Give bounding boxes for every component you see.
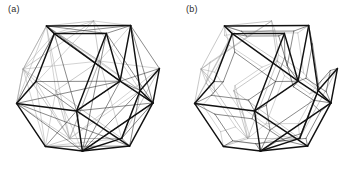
dodecahedron-diagram-b [178,0,355,169]
back-edges [195,21,338,146]
panel-b: (b) [178,0,355,169]
panel-a: (a) [0,0,177,169]
back-edges [17,21,160,146]
figure-root: (a) (b) [0,0,355,169]
front-face-detail [195,26,338,151]
front-face-detail [17,26,160,151]
dodecahedron-diagram-a [0,0,177,169]
